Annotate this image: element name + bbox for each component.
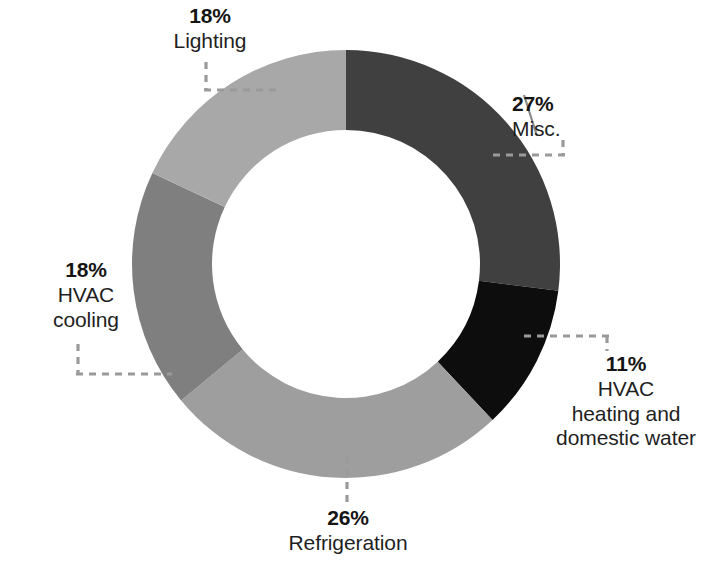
slice-percent-refrigeration: 26%	[238, 506, 458, 531]
donut-chart-figure: 18% Lighting 27% Misc. 11% HVAC heating …	[0, 0, 712, 576]
slice-percent-hvac-heating: 11%	[540, 352, 712, 377]
slice-label-refrigeration: 26% Refrigeration	[238, 506, 458, 556]
slice-label-lighting: 18% Lighting	[110, 4, 310, 54]
slice-percent-hvac-cooling: 18%	[6, 258, 166, 283]
slice-label-hvac-cooling: 18% HVAC cooling	[6, 258, 166, 332]
slice-name-hvac-cooling: HVAC cooling	[6, 283, 166, 333]
slice-name-refrigeration: Refrigeration	[238, 531, 458, 556]
slice-label-misc: 27% Misc.	[512, 92, 682, 142]
slice-name-hvac-heating: HVAC heating and domestic water	[540, 377, 712, 451]
slice-percent-misc: 27%	[512, 92, 682, 117]
donut-slice-misc[interactable]	[346, 50, 560, 291]
slice-name-misc: Misc.	[512, 117, 682, 142]
donut-slice-lighting[interactable]	[152, 50, 346, 207]
slice-name-lighting: Lighting	[110, 29, 310, 54]
slice-label-hvac-heating: 11% HVAC heating and domestic water	[540, 352, 712, 451]
slice-percent-lighting: 18%	[110, 4, 310, 29]
donut-slice-group	[132, 50, 560, 478]
